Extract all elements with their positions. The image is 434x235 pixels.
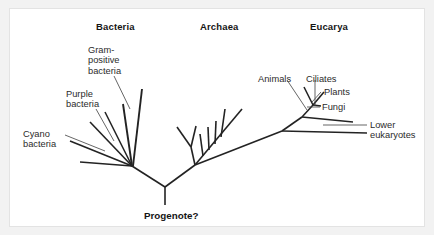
branch-eucarya-crown-stem: [282, 117, 302, 131]
branch-archaea-tick1: [200, 134, 203, 156]
taxon-line: Animals: [258, 74, 291, 84]
taxon-label-purple-bacteria: Purple bacteria: [66, 89, 99, 110]
taxon-line: Plants: [324, 87, 350, 97]
figure-panel: Bacteria Archaea Eucarya Gram- positive …: [9, 8, 425, 227]
branch-archaea-tick3: [215, 121, 216, 144]
branch-archaea-fork-left: [177, 127, 191, 147]
branch-bacteria-tip2: [70, 141, 132, 166]
taxon-line: bacteria: [88, 66, 121, 76]
domain-heading-eucarya: Eucarya: [310, 21, 348, 32]
branch-eucarya-lower-eukaryotes: [282, 131, 367, 133]
branch-root-to-archaea: [165, 165, 195, 187]
taxon-line: bacteria: [66, 99, 99, 109]
branch-root-to-bacteria: [132, 166, 165, 187]
taxon-label-lower-eukaryotes: Lower eukaryotes: [370, 120, 415, 141]
figure-root: Bacteria Archaea Eucarya Gram- positive …: [0, 0, 434, 235]
branch-archaea-tick2: [208, 127, 209, 150]
branch-eucarya-fungi-short: [313, 105, 321, 106]
leader-animals: [287, 80, 307, 110]
taxon-line: Gram-: [88, 45, 121, 55]
taxon-line: Cyano: [23, 129, 56, 139]
branch-archaea-left-stem: [191, 147, 195, 165]
taxon-line: Lower: [370, 120, 415, 130]
taxon-line: Purple: [66, 89, 99, 99]
phylogenetic-tree-graphic: [10, 9, 425, 227]
taxon-line: Ciliates: [306, 74, 336, 84]
branch-eucarya-animals: [304, 87, 313, 105]
taxon-label-cyano-bacteria: Cyano bacteria: [23, 129, 56, 150]
domain-heading-archaea: Archaea: [200, 21, 239, 32]
taxon-line: Fungi: [322, 102, 345, 112]
taxon-line: bacteria: [23, 139, 56, 149]
branch-bacteria-tip6: [133, 89, 142, 166]
branch-archaea-fork-right: [191, 126, 196, 147]
taxon-line: positive: [88, 55, 121, 65]
taxon-label-plants: Plants: [324, 87, 350, 97]
leader-cyano-bacteria: [65, 135, 105, 151]
domain-heading-bacteria: Bacteria: [96, 21, 135, 32]
taxon-label-fungi: Fungi: [322, 102, 345, 112]
root-label-progenote: Progenote?: [144, 210, 198, 221]
taxon-label-animals: Animals: [258, 74, 291, 84]
taxon-label-ciliates: Ciliates: [306, 74, 336, 84]
leader-gram-positive-bacteria: [114, 76, 130, 109]
taxon-label-gram-positive-bacteria: Gram- positive bacteria: [88, 45, 121, 76]
branch-eucarya-fungi: [302, 117, 353, 122]
taxon-line: eukaryotes: [370, 130, 415, 140]
